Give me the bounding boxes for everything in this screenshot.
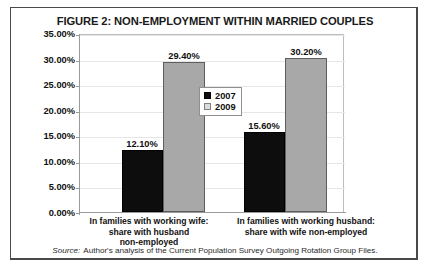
y-axis-tick-label: 30.00% bbox=[17, 55, 75, 65]
y-axis-tick bbox=[76, 137, 80, 138]
bar-value-2009-group-0: 29.40% bbox=[168, 51, 200, 61]
x-axis-line bbox=[79, 212, 346, 213]
x-axis-category-label-0: In families with working wife: share wit… bbox=[69, 216, 229, 248]
bar-2007-group-1[interactable] bbox=[244, 132, 285, 212]
y-axis-tick-label: 0.00% bbox=[17, 208, 75, 218]
gridline bbox=[80, 35, 345, 36]
category-line: In families with working husband: bbox=[216, 216, 396, 227]
category-line: share with husband bbox=[69, 227, 229, 238]
legend-label-2007: 2007 bbox=[215, 91, 236, 101]
source-note: Source:Author's analysis of the Current … bbox=[11, 246, 419, 255]
bar-2009-group-0[interactable] bbox=[163, 62, 205, 212]
y-axis-labels: 35.00% 30.00% 25.00% 20.00% 15.00% 10.00… bbox=[13, 34, 75, 213]
bar-value-2007-group-1: 15.60% bbox=[248, 121, 280, 131]
y-axis-tick bbox=[76, 61, 80, 62]
y-axis-tick-label: 10.00% bbox=[17, 157, 75, 167]
y-axis-tick bbox=[76, 112, 80, 113]
source-text: Author's analysis of the Current Populat… bbox=[83, 246, 377, 255]
bar-2009-group-1[interactable] bbox=[285, 58, 327, 212]
plot-area: 12.10% 29.40% 15.60% 30.20% bbox=[79, 34, 344, 213]
y-axis-tick bbox=[76, 86, 80, 87]
y-axis-tick-label: 15.00% bbox=[17, 131, 75, 141]
legend-swatch-icon-2007 bbox=[204, 92, 211, 99]
chart-legend: 2007 2009 bbox=[199, 87, 242, 116]
legend-item-2009[interactable]: 2009 bbox=[204, 101, 236, 112]
category-line: In families with working wife: bbox=[69, 216, 229, 227]
figure-container: FIGURE 2: NON-EMPLOYMENT WITHIN MARRIED … bbox=[10, 7, 418, 260]
y-axis-tick-label: 35.00% bbox=[17, 29, 75, 39]
legend-label-2009: 2009 bbox=[215, 102, 236, 112]
y-axis-tick-label: 5.00% bbox=[17, 182, 75, 192]
source-label: Source: bbox=[52, 246, 80, 255]
legend-item-2007[interactable]: 2007 bbox=[204, 90, 236, 101]
bar-2007-group-0[interactable] bbox=[122, 150, 163, 212]
bar-value-2009-group-1: 30.20% bbox=[290, 47, 322, 57]
bar-chart: 35.00% 30.00% 25.00% 20.00% 15.00% 10.00… bbox=[11, 8, 419, 261]
x-axis-category-label-1: In families with working husband: share … bbox=[216, 216, 396, 237]
y-axis-tick-label: 25.00% bbox=[17, 80, 75, 90]
y-axis-tick bbox=[76, 163, 80, 164]
y-axis-tick bbox=[76, 213, 80, 214]
y-axis-tick-label: 20.00% bbox=[17, 106, 75, 116]
y-axis-tick bbox=[76, 35, 80, 36]
category-line: share with wife non-employed bbox=[216, 227, 396, 238]
bar-value-2007-group-0: 12.10% bbox=[126, 139, 158, 149]
y-axis-tick bbox=[76, 188, 80, 189]
legend-swatch-icon-2009 bbox=[204, 103, 211, 110]
